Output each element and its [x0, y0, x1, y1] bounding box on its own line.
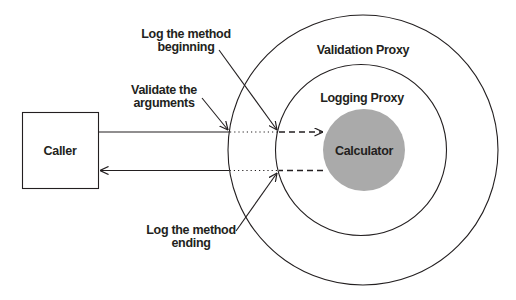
calculator-label: Calculator [335, 144, 394, 158]
log-begin-pointer-arrow [219, 50, 277, 130]
validate-label-line1: Validate the [131, 83, 197, 97]
proxy-chain-diagram: Validation Proxy Logging Proxy Calculato… [0, 0, 516, 300]
validate-pointer-arrow [202, 98, 228, 130]
log-end-pointer-arrow [236, 173, 277, 231]
log-begin-label-line2: beginning [157, 40, 214, 54]
log-end-label-line2: ending [171, 236, 210, 250]
caller-label: Caller [44, 144, 77, 158]
log-begin-label-line1: Log the method [141, 27, 231, 41]
logging-proxy-label: Logging Proxy [320, 91, 404, 105]
validation-proxy-label: Validation Proxy [317, 43, 410, 57]
log-end-label-line1: Log the method [146, 223, 236, 237]
validate-label-line2: arguments [133, 96, 195, 110]
